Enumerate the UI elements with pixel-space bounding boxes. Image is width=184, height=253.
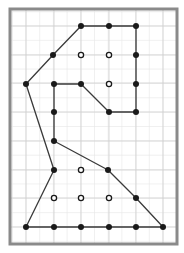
filled-dot [105, 167, 111, 173]
filled-dot [106, 224, 112, 230]
filled-dot [51, 109, 57, 115]
dot-grid-diagram [0, 0, 184, 253]
filled-dot [160, 224, 166, 230]
filled-dot [133, 52, 139, 58]
filled-dot [133, 195, 139, 201]
filled-dot [106, 23, 112, 29]
filled-dot [133, 109, 139, 115]
filled-dot [133, 224, 139, 230]
filled-dot [133, 81, 139, 87]
filled-dot [51, 138, 57, 144]
filled-dot [50, 52, 56, 58]
filled-dot [133, 23, 139, 29]
open-dot [78, 195, 83, 200]
filled-dot [78, 23, 84, 29]
open-dot [78, 167, 83, 172]
filled-dot [78, 81, 84, 87]
filled-dot [51, 167, 57, 173]
filled-dot [51, 81, 57, 87]
filled-dot [23, 81, 29, 87]
open-dot [51, 195, 56, 200]
filled-dot [23, 224, 29, 230]
open-dot [78, 52, 83, 57]
filled-dot [106, 109, 112, 115]
filled-dot [78, 224, 84, 230]
open-dot [106, 52, 111, 57]
open-dot [106, 81, 111, 86]
filled-dot [51, 224, 57, 230]
open-dot [106, 195, 111, 200]
